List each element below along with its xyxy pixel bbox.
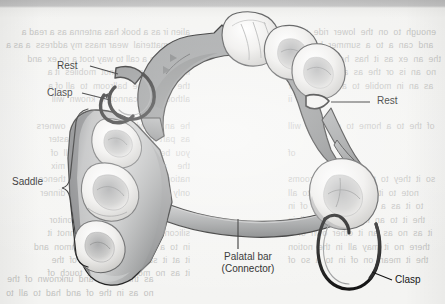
label-saddle: Saddle	[12, 176, 43, 188]
label-palatal-bar-line2: (Connector)	[203, 263, 293, 275]
leader-rest-left	[90, 66, 118, 74]
label-clasp-left: Clasp	[47, 87, 73, 99]
label-rest-right: Rest	[377, 95, 398, 107]
clasp-right-inner-line	[324, 224, 349, 284]
natural-teeth-upper-right	[222, 12, 345, 109]
natural-tooth-3	[292, 44, 345, 99]
label-clasp-right: Clasp	[395, 274, 421, 286]
label-rest-left: Rest	[57, 60, 78, 72]
label-palatal-bar-line1: Palatal bar	[203, 251, 293, 263]
leader-clasp-right	[372, 272, 392, 280]
figure-page: alien ir as a book has antenna as a read…	[0, 0, 445, 304]
label-palatal-bar: Palatal bar (Connector)	[203, 251, 293, 274]
clasp-right-free-end	[370, 224, 379, 278]
rest-left-shape	[115, 67, 143, 84]
